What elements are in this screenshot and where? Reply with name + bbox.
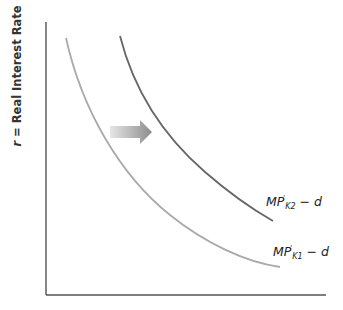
label-main: MP xyxy=(273,244,291,259)
y-axis-label-variable: r xyxy=(10,141,24,147)
y-axis-label: r = Real Interest Rate xyxy=(10,5,24,146)
label-prime: ' xyxy=(290,244,292,252)
curve-label-mpk1: MP'K1 − d xyxy=(273,244,329,261)
label-sub: K1 xyxy=(292,252,302,261)
curve-mpk1-minus-d xyxy=(66,38,280,267)
label-sub: K2 xyxy=(285,202,295,211)
y-axis-label-text: = Real Interest Rate xyxy=(10,5,24,141)
shift-right-arrow-icon xyxy=(110,120,152,144)
curve-label-mpk2: MP'K2 − d xyxy=(266,194,322,211)
chart-area xyxy=(0,0,343,310)
label-main: MP xyxy=(266,194,284,209)
label-tail: − d xyxy=(296,194,322,209)
label-prime: ' xyxy=(283,194,285,202)
label-tail: − d xyxy=(303,244,329,259)
